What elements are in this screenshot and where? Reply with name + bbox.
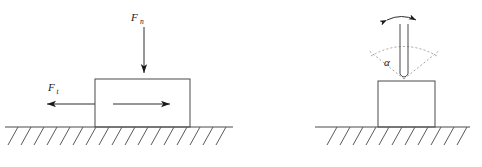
left-block <box>95 79 190 127</box>
friction-force-label: F t <box>47 81 60 96</box>
normal-force-label: F n <box>130 11 144 26</box>
sweep-angle-label: α <box>384 56 390 68</box>
angle-arc <box>371 47 437 57</box>
normal-force-label-subscript: n <box>140 17 144 26</box>
right-block <box>378 81 435 127</box>
oscillation-arrow <box>387 17 416 21</box>
angle-rays <box>368 47 440 80</box>
right-panel: α <box>315 17 470 146</box>
probe-rod <box>400 24 408 77</box>
friction-force-label-subscript: t <box>57 87 60 96</box>
left-ground-hatching <box>8 127 226 145</box>
left-panel: F n F t <box>5 11 233 145</box>
normal-force-label-base: F <box>130 11 138 23</box>
friction-force-label-base: F <box>47 81 55 93</box>
right-ground-hatching <box>327 127 467 145</box>
physics-diagram: F n F t <box>0 0 482 167</box>
